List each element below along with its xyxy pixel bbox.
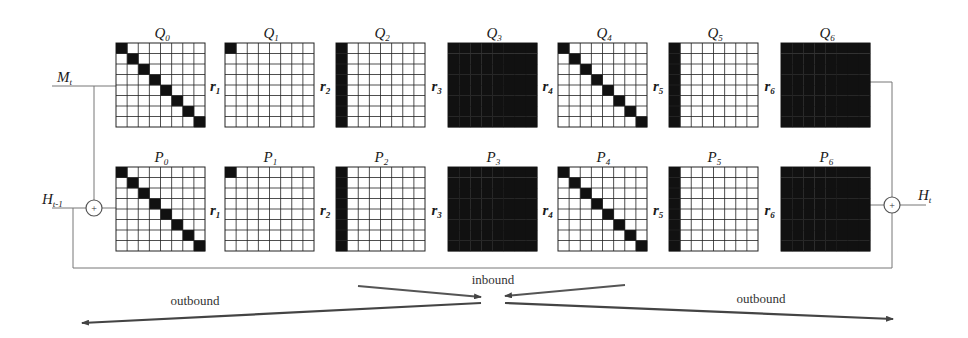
matrix-label: Q3 bbox=[487, 25, 503, 43]
m-input-label: Mt bbox=[56, 69, 73, 87]
matrix-label: P2 bbox=[374, 149, 389, 167]
rotation-label-3: r3 bbox=[432, 78, 443, 96]
matrix-q5: Q5 bbox=[669, 25, 758, 127]
rotation-label-5: r5 bbox=[653, 78, 664, 96]
matrix-label: Q1 bbox=[264, 25, 279, 43]
matrix-label: P1 bbox=[263, 149, 278, 167]
matrix-pipeline-diagram: + + Mt Ht-1 Ht Q0Q1Q2Q3Q4Q5Q6P0P1P2P3P4P… bbox=[0, 0, 968, 338]
rotation-label-4: r4 bbox=[543, 78, 554, 96]
matrix-label: P5 bbox=[707, 149, 722, 167]
matrix-q3: Q3 bbox=[448, 25, 537, 127]
matrix-q6: Q6 bbox=[781, 25, 870, 127]
matrix-label: Q4 bbox=[597, 25, 613, 43]
rotation-label-2: r2 bbox=[320, 78, 331, 96]
outbound-left-label: outbound bbox=[170, 293, 220, 308]
rotation-label-6: r6 bbox=[765, 78, 776, 96]
outbound-arrow-right bbox=[505, 303, 893, 319]
rotation-label-2: r2 bbox=[320, 202, 331, 220]
matrix-p2: P2 bbox=[336, 149, 425, 251]
rotation-label-1: r1 bbox=[210, 202, 220, 220]
matrix-label: P4 bbox=[596, 149, 611, 167]
matrix-q4: Q4 bbox=[558, 25, 647, 127]
inbound-label: inbound bbox=[472, 272, 515, 287]
matrix-p1: P1 bbox=[225, 149, 314, 251]
left-adder-symbol: + bbox=[91, 203, 97, 214]
matrix-label: Q5 bbox=[708, 25, 724, 43]
matrix-p3: P3 bbox=[448, 149, 537, 251]
matrix-label: Q0 bbox=[155, 25, 171, 43]
h-output-label: Ht bbox=[917, 187, 932, 205]
right-adder-symbol: + bbox=[889, 200, 895, 211]
matrix-p4: P4 bbox=[558, 149, 647, 251]
matrix-q2: Q2 bbox=[336, 25, 425, 127]
right-adder: + bbox=[884, 197, 900, 213]
rotation-label-1: r1 bbox=[210, 78, 220, 96]
rotation-label-6: r6 bbox=[765, 202, 776, 220]
matrices: Q0Q1Q2Q3Q4Q5Q6P0P1P2P3P4P5P6 bbox=[116, 25, 870, 251]
h-prev-input-label: Ht-1 bbox=[41, 191, 63, 209]
matrix-label: Q6 bbox=[820, 25, 836, 43]
matrix-p5: P5 bbox=[669, 149, 758, 251]
matrix-label: P6 bbox=[819, 149, 834, 167]
rotation-label-5: r5 bbox=[653, 202, 664, 220]
inbound-arrow-left bbox=[358, 286, 481, 297]
matrix-p0: P0 bbox=[116, 149, 205, 251]
matrix-q0: Q0 bbox=[116, 25, 205, 127]
matrix-label: P0 bbox=[154, 149, 169, 167]
matrix-label: P3 bbox=[486, 149, 501, 167]
matrix-label: Q2 bbox=[375, 25, 391, 43]
inbound-arrow-right bbox=[505, 285, 625, 296]
rotation-label-3: r3 bbox=[432, 202, 443, 220]
rotation-label-4: r4 bbox=[543, 202, 554, 220]
matrix-p6: P6 bbox=[781, 149, 870, 251]
outbound-right-label: outbound bbox=[736, 291, 786, 306]
outbound-arrow-left bbox=[82, 303, 481, 323]
left-adder: + bbox=[86, 200, 102, 216]
matrix-q1: Q1 bbox=[225, 25, 314, 127]
